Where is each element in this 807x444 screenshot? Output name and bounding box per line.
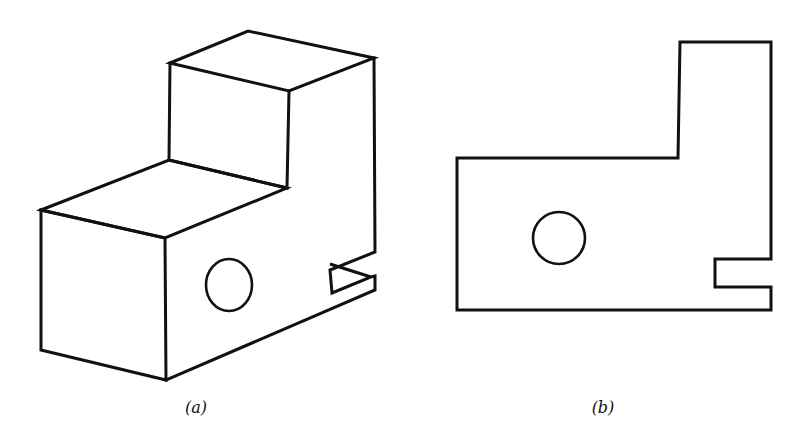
caption-a: (a) [166, 398, 226, 417]
upper-block-front-face [169, 63, 289, 188]
lower-block-top-face [41, 160, 287, 238]
caption-b: (b) [573, 398, 633, 417]
front-view-outline [457, 42, 771, 310]
figure-canvas [0, 0, 807, 444]
lower-block-left-face [41, 210, 166, 380]
right-side-face-outline [166, 58, 375, 380]
isometric-view [41, 31, 375, 380]
orthographic-view [457, 42, 771, 310]
isometric-circular-hole [206, 259, 252, 311]
front-view-circular-hole [533, 212, 585, 264]
upper-block-top-face [170, 31, 374, 91]
